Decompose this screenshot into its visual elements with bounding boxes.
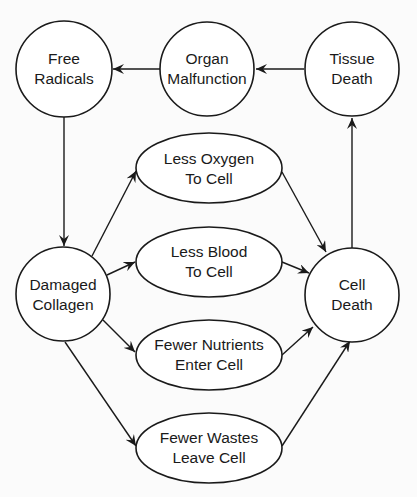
edge-less-blood-to-cell-death (282, 262, 309, 273)
edge-fewer-wastes-to-cell-death (282, 341, 350, 446)
node-ellipse (136, 227, 282, 297)
node-label-line2: Death (331, 70, 372, 87)
node-label-line2: Malfunction (167, 70, 246, 87)
edge-less-oxygen-to-cell-death (282, 172, 326, 252)
edge-damaged-collagen-to-fewer-wastes (65, 342, 136, 446)
node-fewer-nutrients: Fewer Nutrients Enter Cell (136, 320, 282, 390)
edge-damaged-collagen-to-less-blood (107, 262, 135, 275)
node-label-line2: Collagen (32, 296, 93, 313)
node-circle (305, 22, 399, 116)
node-label-line1: Fewer Nutrients (154, 336, 264, 353)
node-cell-death: Cell Death (305, 248, 399, 342)
node-circle (16, 21, 112, 117)
node-less-oxygen: Less Oxygen To Cell (136, 133, 282, 203)
node-circle (305, 248, 399, 342)
node-label-line2: Death (331, 296, 372, 313)
node-label-line1: Less Oxygen (164, 150, 254, 167)
node-circle (160, 22, 254, 116)
node-circle (16, 247, 110, 341)
node-label-line1: Less Blood (171, 243, 248, 260)
edge-fewer-nutrients-to-cell-death (282, 327, 313, 355)
node-ellipse (136, 133, 282, 203)
node-fewer-wastes: Fewer Wastes Leave Cell (136, 413, 282, 483)
node-ellipse (136, 413, 282, 483)
node-label-line2: Leave Cell (172, 449, 245, 466)
node-label-line1: Tissue (329, 50, 374, 67)
node-label-line2: Enter Cell (175, 356, 243, 373)
node-label-line2: Radicals (34, 70, 94, 87)
node-damaged-collagen: Damaged Collagen (16, 247, 110, 341)
node-label-line1: Fewer Wastes (160, 429, 259, 446)
flow-diagram: Free Radicals Organ Malfunction Tissue D… (0, 0, 417, 497)
node-label-line1: Organ (185, 50, 228, 67)
node-label-line1: Free (48, 50, 80, 67)
edge-damaged-collagen-to-fewer-nutrients (103, 320, 135, 352)
edge-damaged-collagen-to-less-oxygen (92, 171, 136, 256)
node-tissue-death: Tissue Death (305, 22, 399, 116)
node-label-line1: Damaged (29, 276, 96, 293)
node-organ-malfunction: Organ Malfunction (160, 22, 254, 116)
node-label-line2: To Cell (185, 170, 232, 187)
node-label-line2: To Cell (185, 263, 232, 280)
node-less-blood: Less Blood To Cell (136, 227, 282, 297)
node-free-radicals: Free Radicals (16, 21, 112, 117)
node-label-line1: Cell (339, 276, 366, 293)
node-ellipse (136, 320, 282, 390)
